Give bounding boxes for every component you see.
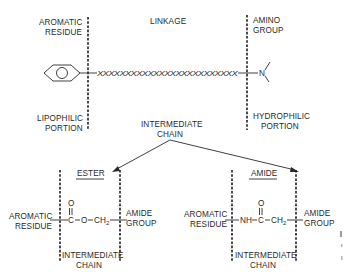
intermediate-chain-label: INTERMEDIATE	[141, 120, 203, 129]
hydrophilic-portion-label-2: PORTION	[261, 122, 299, 131]
linkage-label: LINKAGE	[150, 17, 187, 26]
nitrogen-bond-lower	[265, 76, 269, 82]
amide-intermediate-chain-label-2: CHAIN	[250, 261, 276, 270]
nitrogen-bond-upper	[265, 62, 270, 70]
lipophilic-portion-label-2: PORTION	[45, 124, 83, 133]
amide-ch2: CH2	[271, 216, 287, 226]
ester-carbonyl-oxygen: O	[68, 199, 74, 208]
hydrophilic-portion-label: HYDROPHILIC	[253, 112, 310, 121]
ester-aromatic-residue-label: AROMATIC	[9, 212, 52, 221]
arrowhead-amide-icon	[290, 167, 299, 172]
amide-amide-group-label-2: GROUP	[304, 219, 335, 228]
arrow-to-ester	[115, 140, 170, 170]
ester-title: ESTER	[77, 169, 105, 178]
amide-carbon: C	[258, 216, 264, 225]
amide-structure: AMIDE AROMATIC RESIDUE NH O C CH2 AMIDE …	[184, 169, 335, 270]
arrowhead-ester-icon	[112, 166, 120, 172]
aromatic-residue-label-2: RESIDUE	[45, 28, 83, 37]
amide-amide-group-label: AMIDE	[304, 209, 331, 218]
ester-intermediate-chain-label: INTERMEDIATE	[62, 251, 124, 260]
ester-structure: ESTER AROMATIC RESIDUE O C O CH2 AMIDE G…	[9, 169, 157, 270]
amide-aromatic-residue-label: AROMATIC	[184, 210, 227, 219]
ester-ch2: CH2	[94, 216, 110, 226]
aromatic-residue-label: AROMATIC	[39, 18, 82, 27]
amino-group-label-2: GROUP	[253, 26, 284, 35]
amide-carbonyl-oxygen: O	[258, 199, 264, 208]
amide-nh: NH	[240, 216, 252, 225]
ester-oxygen: O	[81, 216, 87, 225]
linkage-chain: XXXXXXXXXXXXXXXXXXXXXXXXX	[96, 69, 239, 78]
amide-intermediate-chain-label: INTERMEDIATE	[235, 251, 297, 260]
amino-group-label: AMINO	[253, 16, 280, 25]
ester-amide-group-label-2: GROUP	[126, 219, 157, 228]
ester-amide-group-label: AMIDE	[126, 209, 153, 218]
amide-aromatic-residue-label-2: RESIDUE	[190, 220, 228, 229]
page-edge-marks	[340, 231, 343, 260]
nitrogen-atom: N	[259, 69, 265, 78]
lipophilic-portion-label: LIPOPHILIC	[37, 114, 83, 123]
intermediate-chain-label-2: CHAIN	[157, 130, 183, 139]
arrow-to-amide	[170, 140, 295, 170]
general-structure: AROMATIC RESIDUE LINKAGE AMINO GROUP LIP…	[37, 15, 310, 133]
benzene-ring-icon	[44, 65, 80, 81]
amide-title: AMIDE	[251, 169, 278, 178]
local-anesthetic-structure-diagram: AROMATIC RESIDUE LINKAGE AMINO GROUP LIP…	[0, 0, 347, 278]
ester-intermediate-chain-label-2: CHAIN	[76, 261, 102, 270]
ester-carbon: C	[68, 216, 74, 225]
ester-aromatic-residue-label-2: RESIDUE	[15, 222, 53, 231]
